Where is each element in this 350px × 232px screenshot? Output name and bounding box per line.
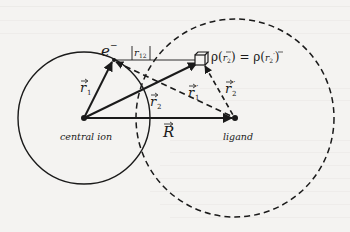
svg-text:e: e — [101, 42, 110, 60]
R-label: R — [162, 122, 174, 141]
ligand-dot — [232, 115, 238, 121]
r12-label: r 12 — [134, 47, 147, 59]
svg-text:12: 12 — [139, 52, 147, 59]
svg-text:1: 1 — [195, 94, 199, 102]
r2-prime-label: r 2 ′ — [225, 79, 236, 98]
svg-text:1: 1 — [87, 89, 91, 97]
svg-text:ρ(r2) = ρ(r2′): ρ(r2) = ρ(r2′) — [211, 50, 279, 64]
svg-text:−: − — [110, 40, 118, 50]
r2-label: r 2 — [150, 93, 161, 111]
central-ion-label: central ion — [60, 131, 112, 142]
r1-label: r 1 — [80, 79, 91, 97]
electron-label: e − — [101, 40, 118, 60]
central-ion-dot — [81, 115, 87, 121]
svg-text:′: ′ — [196, 83, 199, 94]
diagram-figure: e − r 12 r 1 r 2 r 1 ′ r 2 ′ R ρ(r — [0, 0, 350, 232]
svg-text:R: R — [162, 123, 174, 141]
ligand-label: ligand — [223, 131, 253, 142]
vector-r2-arrow — [84, 63, 197, 118]
svg-text:2: 2 — [232, 90, 236, 98]
svg-text:2: 2 — [157, 103, 161, 111]
r1-prime-label: r 1 ′ — [188, 83, 199, 102]
volume-element-cube-icon — [195, 52, 208, 65]
density-equation-label: ρ(r2) = ρ(r2′) — [211, 50, 283, 64]
electron-dot — [112, 58, 116, 62]
diagram-canvas: e − r 12 r 1 r 2 r 1 ′ r 2 ′ R ρ(r — [0, 0, 350, 232]
background-bleed-through — [0, 6, 350, 218]
